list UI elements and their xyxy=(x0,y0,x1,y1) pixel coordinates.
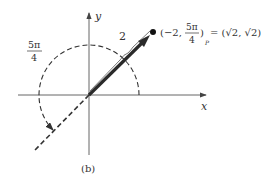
y-axis-label: y xyxy=(94,10,102,23)
angle-label-numerator: 5π xyxy=(28,39,40,50)
dashed-ray xyxy=(35,95,89,150)
x-axis-label: x xyxy=(201,100,208,113)
point-label-frac-num: 5π xyxy=(186,22,198,32)
position-vector xyxy=(89,42,143,95)
point-label-open: (−2, xyxy=(160,27,182,38)
point-dot xyxy=(150,29,156,35)
point-label-equals: = (√2, √2) xyxy=(210,27,261,38)
angle-label-denominator: 4 xyxy=(31,52,37,63)
point-label-subscript: P xyxy=(204,39,210,46)
point-label-frac-den: 4 xyxy=(189,35,195,45)
radius-label: 2 xyxy=(119,30,126,43)
figure-caption: (b) xyxy=(81,163,95,174)
point-label-close: ) xyxy=(200,27,204,38)
polar-coordinate-diagram: y x 2 5π 4 (−2, 5π 4 ) P = (√2, √2) (b) xyxy=(0,0,277,182)
